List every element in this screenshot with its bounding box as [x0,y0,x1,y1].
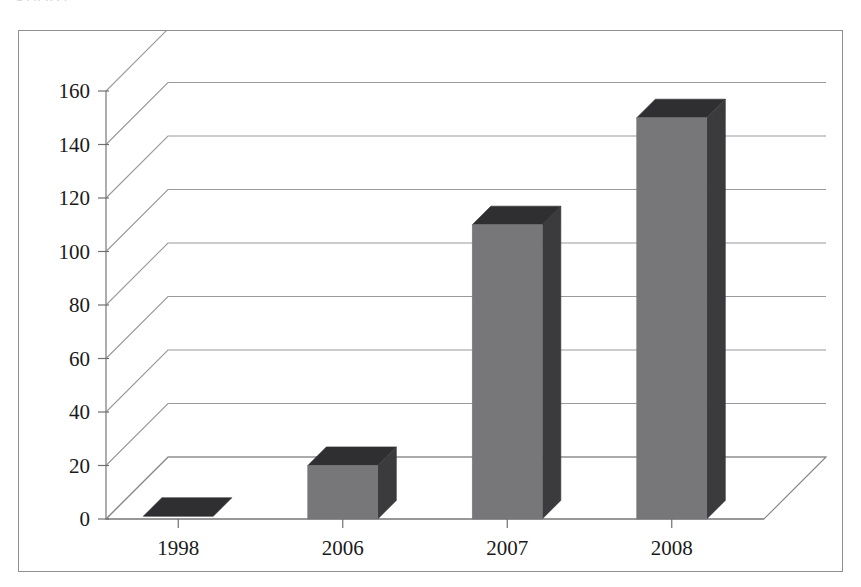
cropped-header-text: CHART [14,0,71,4]
x-axis: 1998200620072008 [157,519,693,560]
y-tick-label: 0 [80,507,91,531]
x-tick-label: 1998 [157,536,199,560]
y-axis: 020406080100120140160 [59,79,110,531]
y-tick-label: 140 [59,133,91,157]
bar-2007 [472,206,561,519]
y-tick-label: 80 [69,293,90,317]
bar-side-face [542,206,561,519]
chart-frame: 020406080100120140160 1998200620072008 [18,30,843,572]
y-tick-label: 20 [69,454,90,478]
bar-group [143,99,725,519]
bar-side-face [707,99,726,519]
y-tick-label: 100 [59,240,91,264]
bar-2006 [308,447,397,519]
y-tick-label: 160 [59,79,91,103]
x-tick-label: 2006 [322,536,364,560]
cropped-header-sliver: CHART [0,0,861,12]
y-tick-label: 40 [69,400,90,424]
bar-1998 [143,498,232,517]
bar-top-face [143,498,232,517]
bar-front-face [472,225,542,519]
bar-2008 [637,99,726,519]
bar-front-face [308,466,378,520]
y-tick-label: 120 [59,186,91,210]
y-tick-label: 60 [69,347,90,371]
x-tick-label: 2007 [486,536,528,560]
x-tick-label: 2008 [651,536,693,560]
bar-front-face [637,118,707,519]
bar-chart-3d: 020406080100120140160 1998200620072008 [19,31,842,571]
